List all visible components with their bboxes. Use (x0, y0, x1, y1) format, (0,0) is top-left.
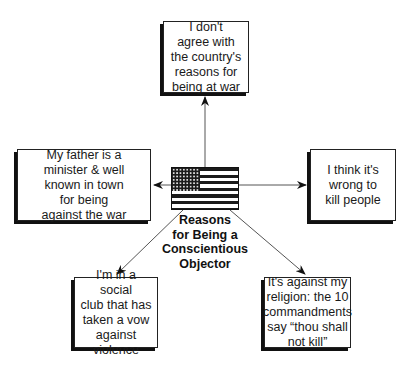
reason-box-religion: It's against my religion: the 10 command… (264, 277, 351, 348)
reason-box-disagree-war: I don't agree with the country's reasons… (163, 21, 249, 93)
reason-text: My father is a minister & well known in … (42, 148, 127, 223)
flag-canton (172, 168, 200, 191)
reason-box-wrong-to-kill: I think it's wrong to kill people (310, 149, 396, 221)
reason-box-social-club: I'm in a social club that has taken a vo… (74, 277, 158, 348)
reason-text: I think it's wrong to kill people (325, 163, 381, 208)
reason-text: I'm in a social club that has taken a vo… (79, 268, 153, 358)
concept-diagram: I don't agree with the country's reasons… (0, 0, 413, 366)
reason-text: It's against my religion: the 10 command… (263, 275, 352, 350)
reason-box-father-minister: My father is a minister & well known in … (17, 149, 151, 221)
us-flag-icon (171, 167, 239, 210)
center-topic-label: Reasons for Being a Conscientious Object… (150, 213, 260, 271)
reason-text: I don't agree with the country's reasons… (171, 20, 241, 95)
